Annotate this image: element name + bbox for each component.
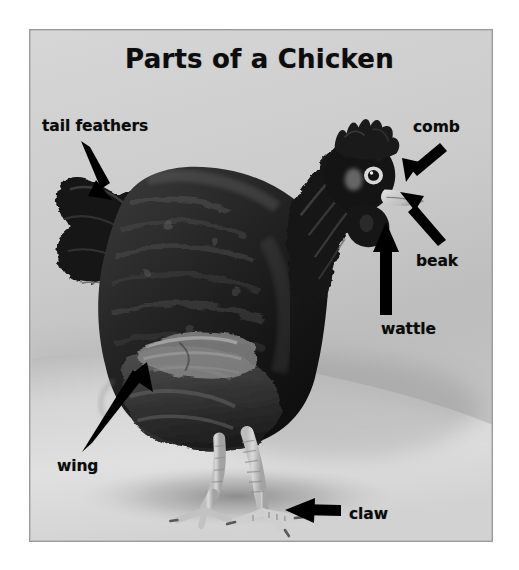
page-root: Parts of a Chicken (0, 0, 519, 570)
label-wing: wing (57, 457, 98, 475)
label-wattle: wattle (381, 320, 436, 338)
label-claw: claw (349, 505, 388, 523)
label-comb: comb (413, 118, 460, 136)
photo-image (30, 30, 492, 541)
chicken-photograph (29, 29, 493, 542)
label-tail-feathers: tail feathers (42, 117, 148, 135)
page-title: Parts of a Chicken (0, 44, 519, 74)
label-beak: beak (416, 252, 458, 270)
